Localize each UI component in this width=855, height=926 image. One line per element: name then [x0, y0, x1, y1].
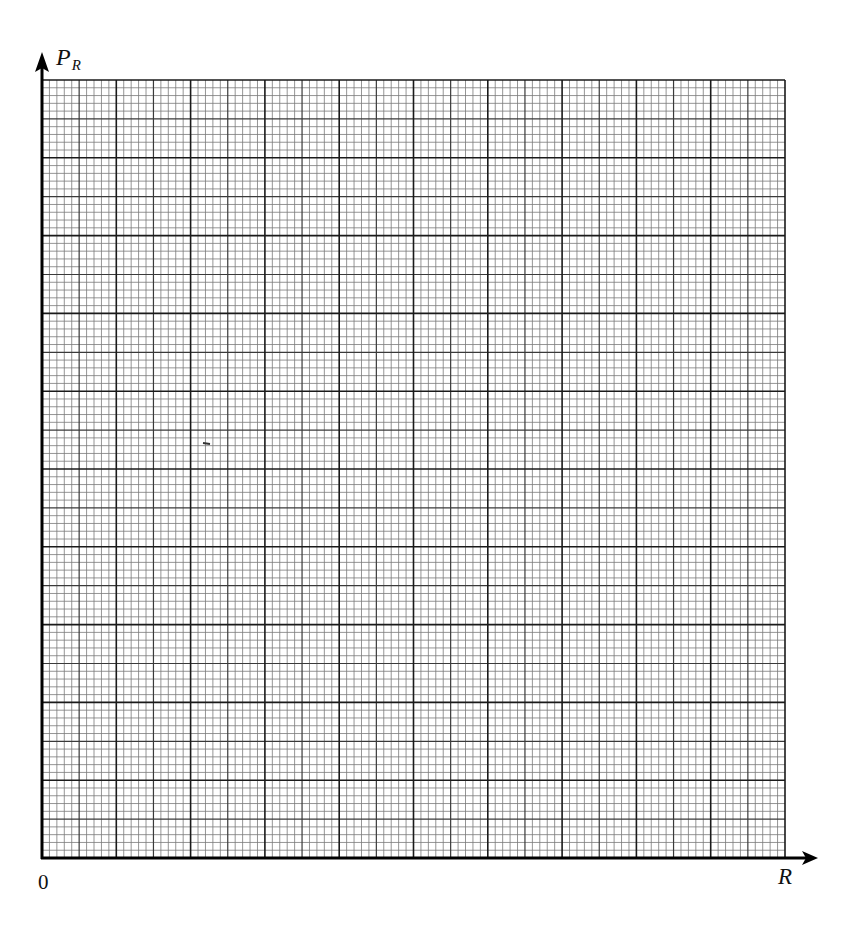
graph-paper [0, 0, 855, 926]
x-axis-label: R [778, 864, 792, 890]
origin-label: 0 [38, 870, 49, 895]
scan-artifact-mark [203, 443, 210, 444]
y-axis-label: PR [56, 44, 81, 74]
axes [35, 52, 818, 865]
y-axis-label-subscript: R [72, 57, 81, 73]
y-axis-label-main: P [56, 44, 71, 70]
